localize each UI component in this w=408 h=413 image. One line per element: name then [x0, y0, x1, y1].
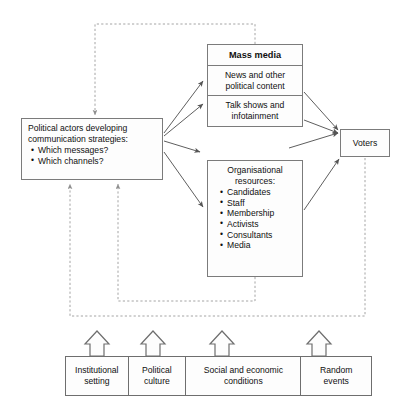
context-cell-random-events[interactable]: Random events [301, 357, 371, 395]
mass-media-cell-news[interactable]: News and other political content [208, 66, 302, 96]
up-arrow-institutional-setting [85, 331, 109, 356]
context-factors-band: Institutional setting Political culture … [65, 356, 372, 396]
organisational-resources-bullet: Candidates [220, 187, 302, 198]
context-cell-social-and-economic-conditions[interactable]: Social and economic conditions [186, 357, 301, 395]
political-actors-bullet: Which channels? [31, 156, 162, 167]
context-cell-line-1: Political [142, 365, 172, 376]
political-actors-lead-line-2: communication strategies: [28, 134, 157, 145]
mass-media-header: Mass media [208, 45, 302, 66]
organisational-resources-title: Organisational resources: [208, 161, 302, 186]
organisational-resources-bullet: Consultants [220, 230, 302, 241]
arrow-midline-to-voters [289, 133, 338, 148]
context-cell-line-1: Social and economic [204, 365, 283, 376]
political-actors-lead-line-1: Political actors developing [28, 123, 157, 134]
context-cell-line-2: culture [142, 376, 172, 387]
context-cell-institutional-setting[interactable]: Institutional setting [66, 357, 129, 395]
arrow-talkshows-to-voters [304, 120, 338, 133]
arrow-actors-to-voters-stub [164, 141, 200, 152]
diagram-canvas: Political actors developing communicatio… [0, 0, 408, 413]
context-cell-line-1: Random [320, 365, 352, 376]
connector-layer [0, 0, 408, 413]
organisational-resources-title-line-1: Organisational [211, 165, 299, 176]
context-cell-political-culture[interactable]: Political culture [129, 357, 187, 395]
political-actors-lead: Political actors developing communicatio… [22, 119, 162, 144]
organisational-resources-bullet-list: Candidates Staff Membership Activists Co… [208, 187, 302, 251]
organisational-resources-title-line-2: resources: [211, 176, 299, 187]
arrow-actors-to-org [164, 152, 203, 207]
political-actors-bullet: Which messages? [31, 145, 162, 156]
node-voters[interactable]: Voters [340, 129, 390, 157]
up-arrow-social-economic [210, 331, 234, 356]
node-mass-media[interactable]: Mass media News and other political cont… [207, 44, 303, 127]
up-arrow-political-culture [141, 331, 165, 356]
arrow-actors-to-news [164, 81, 203, 133]
mass-media-cell-talkshows[interactable]: Talk shows and infotainment [208, 96, 302, 126]
arrow-org-to-voters [304, 159, 339, 210]
voters-label: Voters [353, 138, 377, 149]
arrow-actors-to-talkshows [164, 104, 203, 136]
context-cell-line-2: events [320, 376, 352, 387]
organisational-resources-bullet: Media [220, 240, 302, 251]
organisational-resources-bullet: Activists [220, 219, 302, 230]
arrow-news-to-voters [304, 92, 338, 130]
organisational-resources-bullet: Staff [220, 198, 302, 209]
up-arrow-random-events [307, 331, 331, 356]
context-arrows [85, 331, 331, 356]
context-cell-line-2: setting [75, 376, 118, 387]
node-political-actors[interactable]: Political actors developing communicatio… [21, 118, 163, 180]
political-actors-bullet-list: Which messages? Which channels? [22, 145, 162, 166]
organisational-resources-bullet: Membership [220, 208, 302, 219]
node-organisational-resources[interactable]: Organisational resources: Candidates Sta… [207, 160, 303, 277]
context-cell-line-2: conditions [204, 376, 283, 387]
context-cell-line-1: Institutional [75, 365, 118, 376]
